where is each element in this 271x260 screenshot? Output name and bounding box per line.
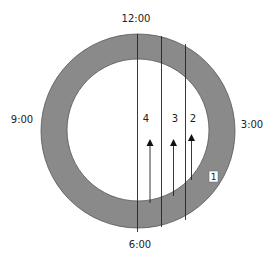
clock-label-3: 3:00 xyxy=(241,119,263,130)
clock-ring-diagram: 4 3 2 1 12:00 3:00 6:00 9:00 xyxy=(0,0,271,260)
clock-label-9: 9:00 xyxy=(11,114,33,125)
box-label-1: 1 xyxy=(211,172,217,182)
clock-label-6: 6:00 xyxy=(129,239,151,250)
line-label-3: 3 xyxy=(172,113,178,124)
clock-label-12: 12:00 xyxy=(122,13,151,24)
line-label-4: 4 xyxy=(143,113,149,124)
line-label-2: 2 xyxy=(190,113,196,124)
inner-circle xyxy=(67,59,209,201)
